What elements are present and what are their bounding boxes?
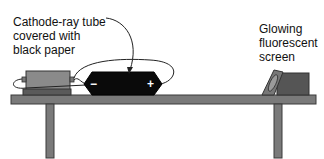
tube-label-line-3: black paper	[13, 43, 133, 57]
screen-label: Glowing fluorescent screen	[259, 22, 324, 64]
fluorescent-screen	[262, 70, 309, 95]
screen-label-line-1: Glowing	[259, 22, 324, 36]
table-leg-left	[46, 104, 54, 158]
tube-label-line-2: covered with	[13, 29, 133, 43]
tube-label: Cathode-ray tube covered with black pape…	[13, 15, 133, 57]
power-supply	[22, 71, 74, 95]
negative-terminal-sign: −	[90, 78, 97, 90]
table-top	[11, 95, 316, 104]
screen-label-line-3: screen	[259, 50, 324, 64]
table-leg-right	[274, 104, 282, 158]
positive-terminal-sign: +	[147, 78, 154, 90]
tube-label-line-1: Cathode-ray tube	[13, 15, 133, 29]
screen-label-line-2: fluorescent	[259, 36, 324, 50]
